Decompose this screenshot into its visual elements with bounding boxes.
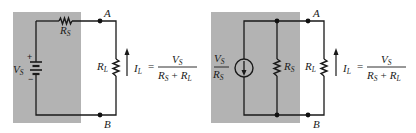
source-conversion-diagram: + − VS RS RL A B IL = VS RS+RL [0, 0, 416, 133]
terminal-b-node [306, 113, 311, 118]
svg-text:VS: VS [381, 53, 392, 67]
terminal-a-node [306, 19, 311, 24]
junction-bottom-node [275, 113, 280, 118]
right-circuit: VS RS RS RL A B IL = VS RS+RL [211, 7, 406, 130]
terminal-b-label: B [104, 118, 111, 130]
rl-label: RL [304, 60, 316, 74]
rl-label: RL [96, 60, 108, 74]
load-current-formula: IL = VS RS+RL [133, 53, 197, 83]
battery-minus-sign: − [28, 74, 33, 84]
svg-text:IL: IL [133, 62, 142, 76]
load-resistor-rl [113, 59, 119, 76]
svg-text:RS+RL: RS+RL [366, 69, 401, 83]
load-current-formula: IL = VS RS+RL [342, 53, 406, 83]
svg-text:RS+RL: RS+RL [157, 69, 192, 83]
terminal-b-node [98, 113, 103, 118]
terminal-a-label: A [103, 7, 111, 19]
left-circuit: + − VS RS RL A B IL = VS RS+RL [13, 7, 197, 130]
junction-top-node [275, 19, 280, 24]
current-arrow-icon [334, 48, 339, 76]
svg-text:=: = [357, 60, 363, 72]
terminal-b-label: B [313, 118, 320, 130]
terminal-a-label: A [312, 7, 320, 19]
svg-text:=: = [148, 60, 154, 72]
terminal-a-node [98, 19, 103, 24]
svg-text:IL: IL [342, 62, 351, 76]
current-arrow-icon [125, 48, 130, 76]
svg-text:VS: VS [172, 53, 183, 67]
load-resistor-rl [321, 59, 327, 76]
battery-plus-sign: + [27, 52, 32, 62]
